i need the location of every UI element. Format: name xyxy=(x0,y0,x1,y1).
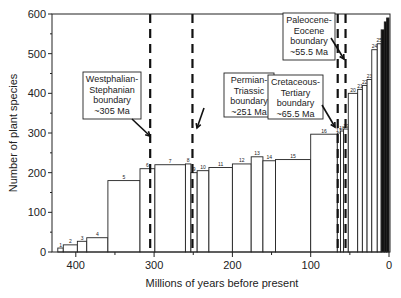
bar-label: 20 xyxy=(350,87,356,93)
x-axis-title: Millions of years before present xyxy=(146,277,299,289)
bar-10 xyxy=(197,171,209,252)
annotation-text: ~305 Ma xyxy=(94,106,129,116)
bar-label: 5 xyxy=(123,174,126,180)
bar-23 xyxy=(367,79,372,252)
annotation-box: Westphalian-Stephanianboundary~305 Ma xyxy=(83,72,150,136)
y-tick-label: 0 xyxy=(40,246,46,258)
bar-28 xyxy=(387,18,389,252)
x-tick-label: 0 xyxy=(386,259,392,271)
x-tick-label: 200 xyxy=(223,259,241,271)
annotation-text: boundary xyxy=(277,98,315,108)
bar-25 xyxy=(377,44,381,252)
annotation-text: ~55.5 Ma xyxy=(290,47,328,57)
bar-5 xyxy=(108,181,140,252)
y-tick-label: 200 xyxy=(28,167,46,179)
annotation-box: Paleocene-Eoceneboundary~55.5 Ma xyxy=(283,13,344,60)
bar-13 xyxy=(251,157,263,252)
arrow-icon xyxy=(132,119,150,136)
annotation-text: boundary xyxy=(290,36,328,46)
bar-8 xyxy=(185,164,190,252)
bar-7 xyxy=(155,165,186,252)
bar-3 xyxy=(77,241,86,252)
bar-label: 16 xyxy=(321,128,327,134)
bar-12 xyxy=(232,164,251,252)
bar-label: 14 xyxy=(266,154,272,160)
bar-18 xyxy=(340,131,343,252)
annotation-text: Paleocene- xyxy=(286,15,332,25)
bar-label: 3 xyxy=(81,235,84,241)
annotation-text: Eocene xyxy=(294,26,325,36)
bar-1 xyxy=(58,248,63,252)
bar-15 xyxy=(275,160,310,252)
bar-20 xyxy=(348,93,357,252)
bar-22 xyxy=(362,85,367,252)
bar-11 xyxy=(209,168,232,252)
species-bar-chart: 1234567891011121314151617181920212223242… xyxy=(0,0,401,298)
y-tick-label: 100 xyxy=(28,206,46,218)
bar-label: 24 xyxy=(372,43,378,49)
bar-21 xyxy=(358,89,363,252)
x-tick-label: 400 xyxy=(67,259,85,271)
bar-19 xyxy=(344,129,349,252)
y-tick-label: 300 xyxy=(28,127,46,139)
arrow-icon xyxy=(322,105,335,127)
bar-label: 6 xyxy=(146,162,149,168)
annotation-text: Tertiary xyxy=(281,88,311,98)
annotation-text: Cretaceous- xyxy=(271,77,320,87)
x-tick-label: 300 xyxy=(145,259,163,271)
bar-label: 12 xyxy=(239,157,245,163)
bar-label: 7 xyxy=(169,158,172,164)
bar-4 xyxy=(87,238,108,252)
annotation-text: Permian- xyxy=(231,75,268,85)
x-tick-label: 100 xyxy=(302,259,320,271)
y-tick-label: 600 xyxy=(28,8,46,20)
bar-label: 13 xyxy=(254,150,260,156)
annotations: Westphalian-Stephanianboundary~305 MaPer… xyxy=(83,13,344,136)
annotation-text: ~65.5 Ma xyxy=(277,109,315,119)
y-axis-title: Number of plant species xyxy=(7,73,19,192)
bar-26 xyxy=(381,30,384,252)
bar-label: 8 xyxy=(187,157,190,163)
annotation-text: Westphalian- xyxy=(86,74,138,84)
annotation-box: Permian-Triassicboundary~251 Ma xyxy=(196,73,274,128)
annotation-text: boundary xyxy=(93,95,131,105)
bar-2 xyxy=(63,245,77,252)
annotation-text: ~251 Ma xyxy=(231,107,266,117)
bar-label: 1 xyxy=(59,242,62,248)
bar-label: 10 xyxy=(200,164,206,170)
bar-label: 4 xyxy=(96,231,99,237)
y-tick-label: 400 xyxy=(28,87,46,99)
bar-14 xyxy=(263,161,276,252)
annotation-box: Cretaceous-Tertiaryboundary~65.5 Ma xyxy=(268,75,335,127)
bar-label: 11 xyxy=(218,161,223,167)
bar-label: 15 xyxy=(290,153,296,159)
annotation-text: boundary xyxy=(230,96,268,106)
bars: 1234567891011121314151617181920212223242… xyxy=(58,18,389,252)
annotation-text: Triassic xyxy=(234,86,265,96)
bar-16 xyxy=(311,134,338,252)
bar-24 xyxy=(372,50,377,252)
y-tick-label: 500 xyxy=(28,48,46,60)
bar-6 xyxy=(140,169,155,252)
annotation-text: Stephanian xyxy=(89,85,135,95)
bar-label: 2 xyxy=(69,238,72,244)
